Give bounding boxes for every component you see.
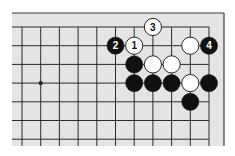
black-stone bbox=[144, 75, 161, 92]
white-stone-1: 1 bbox=[126, 37, 143, 54]
black-stone bbox=[182, 93, 199, 110]
white-stone bbox=[144, 56, 161, 73]
black-stone bbox=[126, 75, 143, 92]
black-stone-4: 4 bbox=[200, 37, 217, 54]
star-point-icon bbox=[39, 81, 43, 85]
move-number-label: 1 bbox=[131, 40, 137, 51]
black-stone bbox=[126, 56, 143, 73]
white-stone bbox=[182, 37, 199, 54]
move-number-label: 2 bbox=[113, 40, 119, 51]
black-stone-2: 2 bbox=[107, 37, 124, 54]
go-board-diagram: 3214 bbox=[0, 0, 235, 156]
move-number-label: 3 bbox=[150, 22, 156, 33]
move-number-label: 4 bbox=[206, 40, 212, 51]
white-stone bbox=[182, 75, 199, 92]
white-stone-3: 3 bbox=[144, 18, 161, 35]
black-stone bbox=[163, 75, 180, 92]
star-points bbox=[39, 81, 43, 85]
white-stone bbox=[163, 56, 180, 73]
black-stone bbox=[200, 75, 217, 92]
